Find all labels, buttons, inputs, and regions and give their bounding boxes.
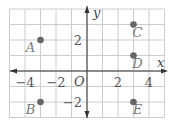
origin-label: O	[74, 74, 85, 89]
y-tick-label: 2	[74, 33, 82, 48]
point-label: C	[133, 25, 143, 40]
point-label: B	[25, 102, 36, 117]
point-label: E	[132, 102, 143, 117]
x-tick-label: 4	[145, 75, 153, 90]
x-axis-arrow-left-icon	[10, 69, 17, 74]
x-tick-label: −2	[46, 75, 65, 90]
x-axis-label: x	[157, 55, 165, 70]
y-axis-label: y	[92, 5, 101, 20]
x-tick-label: −4	[15, 75, 34, 90]
point-label: D	[131, 56, 143, 71]
y-tick-label: −2	[63, 95, 82, 110]
y-axis-arrow-down-icon	[85, 111, 90, 118]
data-points: ABCDE	[25, 21, 144, 117]
x-tick-label: 2	[114, 75, 122, 90]
coordinate-plane: y x O −4−2242−2 ABCDE	[0, 0, 175, 129]
point-b	[37, 99, 44, 106]
point-label: A	[25, 40, 35, 55]
point-a	[37, 37, 44, 44]
